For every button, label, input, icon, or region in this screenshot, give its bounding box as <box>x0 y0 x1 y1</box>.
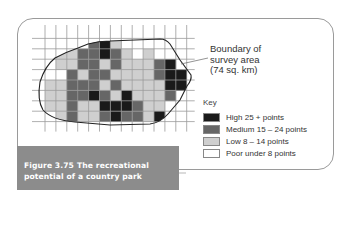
figure-title-line1: The recreational <box>77 161 149 170</box>
key-title: Key <box>203 98 217 107</box>
grid-cell <box>154 90 165 101</box>
figure-caption: Figure 3.75The recreational potential of… <box>17 146 179 190</box>
grid-cell <box>67 59 78 70</box>
grid-cell <box>121 49 132 60</box>
grid-cell <box>154 59 165 70</box>
grid-cell <box>89 80 100 91</box>
grid-cell <box>100 101 111 112</box>
grid-cell <box>45 90 56 101</box>
grid-cell <box>45 80 56 91</box>
boundary-line3: (74 sq. km) <box>210 65 261 76</box>
grid-cell <box>45 101 56 112</box>
grid-cell <box>78 90 89 101</box>
grid-cell <box>100 70 111 81</box>
grid-cell <box>121 80 132 91</box>
key-label-poor: Poor under 8 points <box>226 149 296 158</box>
grid-cell <box>67 111 78 122</box>
grid-cell <box>143 49 154 60</box>
grid-cell <box>121 111 132 122</box>
grid-cell <box>176 70 187 81</box>
grid-cell <box>56 90 67 101</box>
grid-cell <box>89 59 100 70</box>
grid-cell <box>110 111 121 122</box>
grid-cell <box>110 38 121 49</box>
grid-cell <box>165 90 176 101</box>
grid-cell <box>89 49 100 60</box>
swatch-high <box>203 113 220 122</box>
figure-number: Figure 3.75 <box>24 161 74 170</box>
swatch-poor <box>203 149 220 158</box>
grid-cell <box>78 80 89 91</box>
grid-cell <box>143 111 154 122</box>
grid-cell <box>121 59 132 70</box>
grid-cell <box>143 101 154 112</box>
key-item-medium: Medium 15 – 24 points <box>203 124 307 134</box>
grid-cell <box>78 111 89 122</box>
grid-cell <box>89 111 100 122</box>
key-item-poor: Poor under 8 points <box>203 148 296 158</box>
grid-cell <box>100 80 111 91</box>
grid-cell <box>67 101 78 112</box>
grid-cell <box>67 80 78 91</box>
grid-cell <box>121 70 132 81</box>
grid-cell <box>132 70 143 81</box>
grid-cell <box>100 38 111 49</box>
grid-cell <box>132 101 143 112</box>
grid-cell <box>132 59 143 70</box>
grid-cell <box>100 111 111 122</box>
key-label-high: High 25 + points <box>226 113 284 122</box>
grid-cell <box>165 80 176 91</box>
grid-cell <box>100 49 111 60</box>
grid-cell <box>143 59 154 70</box>
grid-cell <box>132 111 143 122</box>
grid-cell <box>56 59 67 70</box>
grid-cell <box>67 70 78 81</box>
grid-cell <box>56 80 67 91</box>
grid-cell <box>110 80 121 91</box>
grid-cell <box>110 90 121 101</box>
grid-cell <box>143 70 154 81</box>
key-item-high: High 25 + points <box>203 112 284 122</box>
grid-cell <box>154 111 165 122</box>
grid-cell <box>121 90 132 101</box>
grid-cell <box>110 59 121 70</box>
grid-cell <box>154 101 165 112</box>
grid-cell <box>78 70 89 81</box>
grid-cell <box>89 101 100 112</box>
grid-cell <box>89 90 100 101</box>
grid-cell <box>78 59 89 70</box>
grid-cell <box>67 90 78 101</box>
grid-cell <box>56 101 67 112</box>
figure-title-line2: potential of a country park <box>24 171 179 182</box>
grid-cell <box>100 59 111 70</box>
key-label-medium: Medium 15 – 24 points <box>226 125 307 134</box>
swatch-medium <box>203 125 220 134</box>
grid-cell <box>78 101 89 112</box>
grid-cell <box>110 70 121 81</box>
grid-cell <box>165 70 176 81</box>
grid-cell <box>165 59 176 70</box>
grid-cell <box>143 90 154 101</box>
grid-cell <box>110 101 121 112</box>
key-item-low: Low 8 – 14 points <box>203 136 289 146</box>
grid-cell <box>100 90 111 101</box>
grid-cell <box>89 70 100 81</box>
boundary-annotation: Boundary of survey area (74 sq. km) <box>210 44 261 76</box>
grid-cell <box>132 90 143 101</box>
swatch-low <box>203 137 220 146</box>
grid-cell <box>154 70 165 81</box>
grid-cell <box>132 80 143 91</box>
grid-cell <box>154 80 165 91</box>
key-label-low: Low 8 – 14 points <box>226 137 289 146</box>
boundary-line1: Boundary of <box>210 44 261 55</box>
grid-cell <box>78 49 89 60</box>
grid-cell <box>121 101 132 112</box>
grid-cell <box>143 80 154 91</box>
grid-cell <box>110 49 121 60</box>
